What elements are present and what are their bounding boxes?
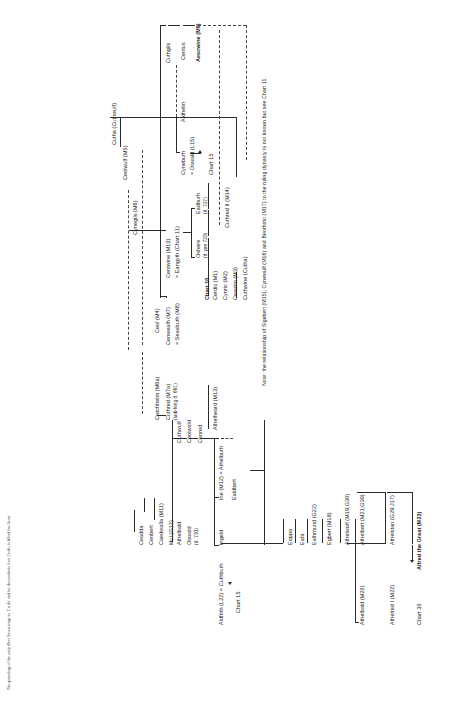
label-caedwalla: Caedwalla (M11)	[159, 503, 164, 545]
stub-aldfrith	[214, 545, 219, 546]
line-cwichhelm-cuthred	[157, 415, 166, 416]
stub-eadburh	[191, 208, 195, 209]
label-egbert: Egbert (M18)	[327, 512, 332, 545]
label-oswald-730-died: (d. 730)	[195, 528, 200, 545]
label-athelred-i: Athelred I (M22)	[390, 585, 395, 625]
label-centus: Centus	[181, 42, 186, 60]
label-athelbert: Athelbert (M21;G30)	[360, 494, 365, 545]
line-cuthwulf-ceolwold	[174, 438, 187, 439]
label-chart30[interactable]: Chart 30	[417, 604, 422, 625]
label-athelheard: Athelheard (M13)	[213, 387, 218, 430]
label-cuthred-m7a: Cuthred (M7a)	[166, 384, 171, 420]
label-aldfrith: Aldfrith (L22) = Cuthburh	[219, 563, 224, 625]
label-oswald-730: Oswald	[187, 526, 192, 545]
label-cenred: Cenred	[198, 425, 203, 443]
label-eadburh-died: (d. 727)	[204, 197, 209, 214]
label-oshere: Oshere	[196, 240, 201, 258]
line-ealhmund-egbert	[322, 519, 323, 543]
label-ceolwold: Ceolwold	[187, 420, 192, 443]
label-cenwealh: Cenwealh (M7)	[166, 307, 171, 345]
line-cuthred-ii-dashed	[219, 30, 220, 225]
genealogy-chart: The genealogy of the early West Saxon ki…	[0, 0, 457, 701]
label-cuthgils: Cuthgils	[166, 43, 171, 63]
arrow-chart15-b	[228, 582, 232, 585]
line-alfred-up	[387, 492, 412, 493]
line-aldhelm-dashed	[176, 65, 177, 117]
line-eafa-ealhmund	[307, 519, 308, 543]
line-aescwine-drop-dashed	[246, 25, 247, 160]
line-athelheard	[208, 385, 209, 429]
line-athelwolf-bus	[347, 543, 355, 544]
line-cutha-ceol-dashed	[142, 150, 143, 345]
line-cenred-to-bus	[200, 438, 214, 439]
line-ceolwold-cenred	[189, 438, 198, 439]
sibling-bar-ceawlin	[236, 117, 237, 177]
label-aldhelm: Aldhelm	[181, 102, 186, 122]
label-cwichhelm: Cwichhelm (M6a)	[155, 377, 160, 420]
line-cuthwine-to-bus	[250, 470, 264, 471]
label-centwine: Centwine (M10)	[166, 239, 171, 278]
label-chart15-a[interactable]: Chart 15	[209, 154, 214, 175]
line-cutha-ceolwulf	[120, 117, 121, 147]
line-cuthgils-centus-h	[168, 25, 180, 26]
line-athelstan-athelred	[357, 543, 385, 544]
stub-ingeld	[214, 497, 219, 498]
label-athelbald-m20: Athelbald (M20)	[360, 585, 365, 625]
line-ceol-cwichhelm-dashed	[142, 352, 143, 414]
label-cyneburh: Cyneburh	[181, 151, 186, 175]
bar-cyneburh	[176, 117, 177, 152]
label-cuthred-m7a-sub: (sub-king d. 661)	[174, 383, 179, 420]
chart-note: Note: the relationship of Sigebert (M15)…	[262, 77, 267, 386]
bar-to-cutha	[110, 117, 237, 118]
label-cenbert: Cenbert	[149, 525, 154, 545]
line-ceolwulf-cynegils-dashed	[128, 190, 129, 350]
bar-athelstan	[385, 492, 386, 544]
stub-oshere	[191, 257, 195, 258]
line-arrow-chart30	[412, 545, 413, 561]
label-ceol: Ceol (M4)	[155, 308, 160, 333]
line-ceadda-cenbert	[134, 510, 135, 532]
label-ceadda: Ceadda	[139, 526, 144, 545]
line-athelwolf-athelstan	[357, 492, 385, 493]
stub-athelbald-m20	[355, 622, 359, 623]
label-athelwolf: Athelwolf (M19;G30)	[345, 494, 350, 545]
label-eafa: Eafa	[300, 534, 305, 546]
line-centwine-to-children	[183, 232, 191, 233]
line-cynegils-to-bus	[129, 230, 160, 231]
label-athelstan: Athelstan (G29;J17)	[390, 495, 395, 545]
label-cynric: Cynric (M2)	[223, 271, 228, 300]
sibling-bar-cynegils	[160, 178, 161, 298]
label-aescwine: Aescwine (M9)	[196, 23, 201, 62]
line-ine-ealdbert-dashed	[221, 438, 233, 439]
line-eoppa-eafa	[295, 519, 296, 543]
line-bus-up-cuthgils	[160, 25, 161, 180]
label-eoppa: Eoppa	[288, 529, 293, 545]
line-cenbert-caedwalla	[144, 498, 145, 512]
label-eangyth: = Eangyth (Chart 11)	[175, 226, 180, 278]
label-cuthred-ii: Cuthred II (M14)	[225, 187, 230, 228]
label-chart15-b[interactable]: Chart 15	[236, 592, 241, 613]
label-ealhmund: Ealhmund (G22)	[312, 504, 317, 545]
stub-ine	[214, 438, 219, 439]
line-arrow-chart15-a	[190, 153, 201, 154]
label-eadburh: Eadburh	[196, 193, 201, 214]
label-cuthwine-cutha: Cuthwine (Cutha)	[243, 256, 248, 300]
line-athelred-alfred	[412, 492, 413, 544]
stub-cenwealh	[166, 296, 167, 298]
line-aescwine-dashed	[198, 25, 246, 26]
label-cerdic: Cerdic (M1)	[213, 271, 218, 300]
line-ingeld-eoppa-h	[221, 543, 283, 544]
bar-centwine-children	[191, 208, 192, 258]
label-cuthwulf: Cuthwulf	[177, 421, 182, 443]
label-ine: Ine (M12) = Athelburh	[219, 446, 224, 500]
label-athelbald-top: Athelbald	[177, 522, 182, 545]
bar-caedwalla-mul	[154, 498, 155, 520]
stub-cyneburh	[176, 152, 180, 153]
line-centus-aescwine	[183, 25, 195, 26]
label-seaxburh: = Seaxburh (M8)	[175, 303, 180, 345]
sibling-bar-cuthwine	[264, 420, 265, 545]
label-cutha-cuthwulf: Cutha (Cuthwulf)	[112, 103, 117, 145]
sibling-bar-cenred	[214, 438, 215, 546]
label-ealdbert: Ealdbert	[232, 479, 237, 500]
line-ceawlin-cuthwine	[236, 272, 237, 298]
